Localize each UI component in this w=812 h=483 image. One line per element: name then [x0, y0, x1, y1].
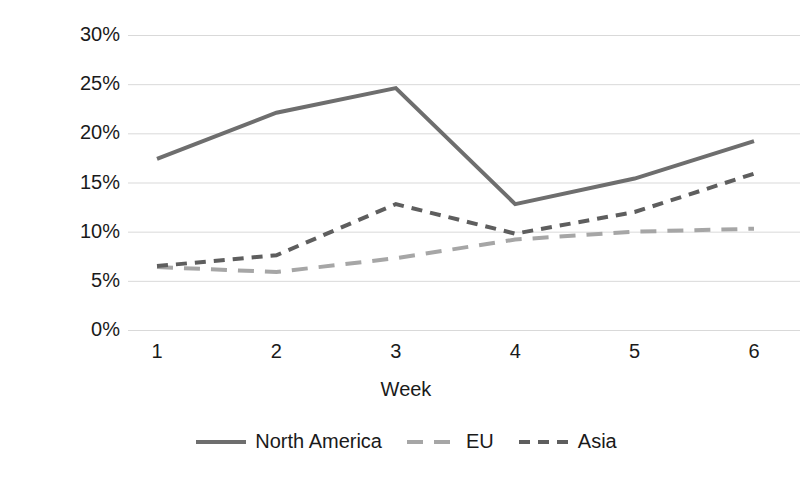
legend-item-asia[interactable]: Asia — [518, 430, 617, 453]
x-axis-title: Week — [0, 378, 812, 401]
legend-label: Asia — [578, 430, 617, 453]
series-line-eu — [157, 229, 754, 272]
series-line-north-america — [157, 88, 754, 204]
legend-label: EU — [466, 430, 494, 453]
line-chart: Inventory % of budget 30%25%20%15%10%5%0… — [0, 0, 812, 483]
x-tick-label: 1 — [127, 340, 187, 363]
legend-swatch-icon — [406, 433, 458, 451]
x-tick-label: 4 — [485, 340, 545, 363]
series-line-asia — [157, 174, 754, 266]
x-tick-label: 6 — [724, 340, 784, 363]
legend-swatch-icon — [518, 433, 570, 451]
legend-label: North America — [255, 430, 382, 453]
legend-swatch-icon — [195, 433, 247, 451]
x-tick-label: 5 — [605, 340, 665, 363]
x-tick-label: 2 — [246, 340, 306, 363]
plot-area — [0, 0, 812, 483]
x-tick-label: 3 — [366, 340, 426, 363]
legend-item-north-america[interactable]: North America — [195, 430, 382, 453]
chart-legend: North AmericaEUAsia — [0, 430, 812, 453]
legend-item-eu[interactable]: EU — [406, 430, 494, 453]
